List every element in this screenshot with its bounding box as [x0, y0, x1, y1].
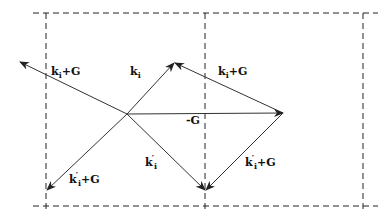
- label-suffix: +G: [257, 156, 276, 169]
- label-text: -G: [186, 114, 200, 127]
- label-k: k: [51, 65, 59, 78]
- vector-minus-g: [127, 113, 283, 114]
- label-ki-plus-g-left: ki+G: [51, 66, 80, 79]
- label-suffix: +G: [81, 173, 100, 186]
- label-sub: i: [154, 161, 157, 171]
- label-sub: i: [138, 70, 141, 80]
- label-k: k: [218, 65, 226, 78]
- diagram-graphics: [0, 0, 391, 217]
- label-minus-g: -G: [186, 115, 200, 126]
- label-kpi-plus-g-left: k′i+G: [69, 172, 100, 187]
- label-kpi-plus-g-right: k′i+G: [245, 155, 276, 170]
- label-ki: ki: [130, 66, 141, 79]
- label-suffix: +G: [229, 65, 248, 78]
- label-k: k: [130, 65, 138, 78]
- vector-kpi-plus-g-right: [206, 113, 283, 190]
- label-ki-plus-g-right: ki+G: [218, 66, 247, 79]
- label-suffix: +G: [62, 65, 81, 78]
- label-kpi: k′i: [145, 155, 157, 170]
- vector-diagram: ki+G ki ki+G -G k′i k′i+G k′i+G: [0, 0, 391, 217]
